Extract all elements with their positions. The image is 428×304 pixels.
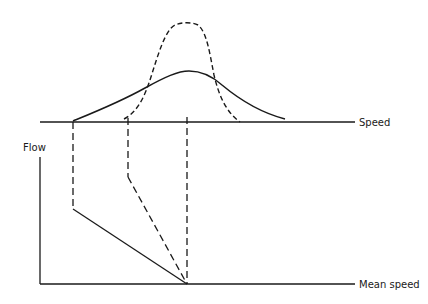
wide-speed-distribution bbox=[73, 71, 285, 121]
speed-axis-label: Speed bbox=[359, 117, 390, 128]
diagram: Speed Flow Mean speed bbox=[0, 0, 428, 304]
flow-line-dashed bbox=[128, 177, 187, 284]
mean-speed-axis-label: Mean speed bbox=[359, 279, 420, 290]
flow-line-solid bbox=[73, 209, 187, 284]
flow-axis-label: Flow bbox=[23, 142, 46, 153]
